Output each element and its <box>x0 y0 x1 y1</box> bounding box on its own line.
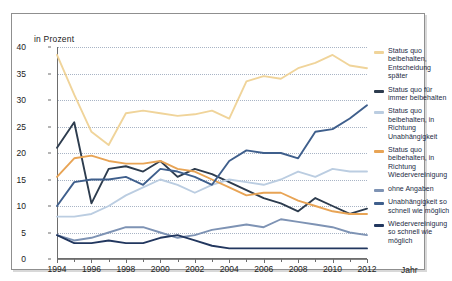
legend-label: Status quo für immer beibehalten <box>388 86 452 103</box>
legend-item[interactable]: Status quo beibehalten, in Richtung Wied… <box>374 146 452 180</box>
legend-item[interactable]: Unabhängigkeit so schnell wie möglich <box>374 198 452 215</box>
y-axis-tick-label: 5 <box>0 228 26 238</box>
x-axis-tick-label: 1996 <box>82 264 101 274</box>
series-line <box>57 169 367 217</box>
legend-label: Status quo beibehalten, in Richtung Wied… <box>388 146 452 180</box>
x-axis-tick-label: 2006 <box>254 264 273 274</box>
x-axis-tick <box>160 259 161 263</box>
x-axis-tick <box>126 259 127 263</box>
legend-color-swatch <box>374 224 384 227</box>
x-axis-tick <box>178 259 179 262</box>
legend-label: ohne Angaben <box>388 185 434 193</box>
x-axis-tick <box>315 259 316 262</box>
chart-legend: Status quo beibehalten, Entscheidung spä… <box>374 47 452 250</box>
x-axis-tick <box>264 259 265 263</box>
x-axis-tick-label: 2000 <box>151 264 170 274</box>
x-axis-tick-label: 1998 <box>116 264 135 274</box>
x-axis-tick <box>143 259 144 262</box>
x-axis-tick <box>298 259 299 263</box>
legend-color-swatch <box>374 90 384 93</box>
y-axis-labels: 0510152025303540 <box>12 47 52 259</box>
y-axis-tick <box>48 73 51 74</box>
x-axis-labels: 1994199619982000200220042006200820102012 <box>57 264 377 278</box>
y-axis-tick-label: 10 <box>0 201 26 211</box>
y-axis-tick <box>48 206 51 207</box>
x-axis-tick <box>367 259 368 263</box>
legend-label: Status quo beibehalten, in Richtung Unab… <box>388 107 452 141</box>
x-axis-tick <box>350 259 351 262</box>
y-axis-tick <box>48 259 51 260</box>
series-line <box>57 122 367 214</box>
legend-label: Status quo beibehalten, Entscheidung spä… <box>388 47 452 81</box>
x-axis-tick-label: 2008 <box>289 264 308 274</box>
y-axis-tick <box>48 100 51 101</box>
y-axis-tick-label: 20 <box>0 148 26 158</box>
x-axis-tick-label: 2010 <box>323 264 342 274</box>
y-axis-tick-label: 25 <box>0 122 26 132</box>
x-axis-title: Jahr <box>401 265 418 275</box>
legend-color-swatch <box>374 111 384 114</box>
legend-item[interactable]: Status quo für immer beibehalten <box>374 86 452 103</box>
x-axis-tick-label: 1994 <box>48 264 67 274</box>
x-axis-tick <box>57 259 58 263</box>
x-axis-tick-label: 2012 <box>358 264 377 274</box>
x-axis-tick-label: 2004 <box>220 264 239 274</box>
x-axis-tick <box>246 259 247 262</box>
y-axis-tick <box>48 47 51 48</box>
x-axis-tick-label: 2002 <box>185 264 204 274</box>
x-axis-tick <box>195 259 196 263</box>
legend-color-swatch <box>374 51 384 54</box>
legend-color-swatch <box>374 202 384 205</box>
x-axis-tick <box>281 259 282 262</box>
x-axis-tick <box>212 259 213 262</box>
plot-area <box>57 47 367 259</box>
y-axis-tick <box>48 179 51 180</box>
series-line <box>57 105 367 206</box>
y-axis-tick-label: 35 <box>0 69 26 79</box>
legend-item[interactable]: Wiedervereinigung so schnell wie möglich <box>374 220 452 245</box>
y-axis-tick-label: 30 <box>0 95 26 105</box>
legend-item[interactable]: Status quo beibehalten, Entscheidung spä… <box>374 47 452 81</box>
x-axis-tick <box>91 259 92 263</box>
y-axis-tick-label: 40 <box>0 42 26 52</box>
series-line <box>57 219 367 240</box>
legend-color-swatch <box>374 189 384 192</box>
series-lines <box>57 47 367 259</box>
y-axis-tick <box>48 153 51 154</box>
legend-item[interactable]: Status quo beibehalten, in Richtung Unab… <box>374 107 452 141</box>
x-axis-tick <box>109 259 110 262</box>
legend-item[interactable]: ohne Angaben <box>374 185 452 193</box>
chart-panel: in Prozent Jahr 0510152025303540 1994199… <box>11 13 425 270</box>
x-axis-tick <box>229 259 230 263</box>
legend-label: Unabhängigkeit so schnell wie möglich <box>388 198 452 215</box>
legend-label: Wiedervereinigung so schnell wie möglich <box>388 220 452 245</box>
y-axis-tick <box>48 232 51 233</box>
x-axis-tick <box>333 259 334 263</box>
legend-color-swatch <box>374 150 384 153</box>
y-axis-title: in Prozent <box>34 34 74 44</box>
x-axis-tick <box>74 259 75 262</box>
series-line <box>57 235 367 248</box>
y-axis-tick-label: 0 <box>0 254 26 264</box>
y-axis-tick <box>48 126 51 127</box>
y-axis-tick-label: 15 <box>0 175 26 185</box>
